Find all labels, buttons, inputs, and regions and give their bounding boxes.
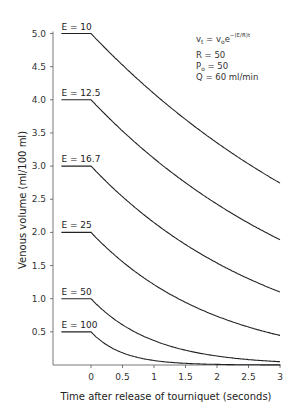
y-axis-title: Venous volume (ml/100 ml) (17, 131, 28, 269)
y-tick-label: 4.0 (32, 95, 47, 105)
y-tick-label: 5.0 (32, 29, 47, 39)
formula: vt = voe−(E/R)t (196, 32, 251, 45)
curve-labels: E = 10E = 12.5E = 16.7E = 25E = 50E = 10… (61, 22, 100, 330)
curve-label: E = 12.5 (61, 88, 100, 98)
decay-curve (61, 166, 280, 292)
x-tick-label: 3 (277, 372, 283, 382)
curve-label: E = 16.7 (61, 154, 100, 164)
y-axis-ticks: 0.51.01.52.02.53.03.54.04.55.0 (32, 29, 53, 337)
y-tick-label: 3.0 (32, 161, 47, 171)
x-tick-label: 1.5 (178, 372, 192, 382)
y-tick-label: 3.5 (32, 128, 46, 138)
param-p: Po = 50 (196, 61, 228, 72)
y-tick-label: 1.5 (32, 261, 46, 271)
param-r: R = 50 (196, 50, 225, 60)
x-axis-ticks: 00.511.522.53 (88, 365, 283, 382)
decay-curve (61, 299, 280, 362)
x-tick-label: 0.5 (115, 372, 129, 382)
venous-volume-chart: 0.51.01.52.02.53.03.54.04.55.0 00.511.52… (0, 0, 299, 413)
curve-label: E = 100 (61, 320, 97, 330)
x-axis-title: Time after release of tourniquet (second… (60, 391, 272, 402)
curves (61, 34, 280, 365)
y-tick-label: 4.5 (32, 62, 46, 72)
x-tick-label: 2 (214, 372, 220, 382)
x-tick-label: 1 (151, 372, 157, 382)
y-tick-label: 2.5 (32, 194, 46, 204)
curve-label: E = 10 (61, 22, 92, 32)
y-tick-label: 1.0 (32, 294, 47, 304)
curve-label: E = 25 (61, 220, 91, 230)
x-tick-label: 0 (88, 372, 94, 382)
x-tick-label: 2.5 (241, 372, 255, 382)
curve-label: E = 50 (61, 287, 92, 297)
formula-annotation: vt = voe−(E/R)tR = 50Po = 50Q = 60 ml/mi… (196, 32, 258, 82)
param-q: Q = 60 ml/min (196, 72, 258, 82)
y-tick-label: 2.0 (32, 227, 47, 237)
y-tick-label: 0.5 (32, 327, 46, 337)
